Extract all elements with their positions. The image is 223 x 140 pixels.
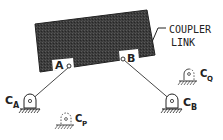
pivot-ca: C A [5, 94, 40, 113]
ground-pivot-icon [24, 94, 36, 108]
pin-a-icon [67, 64, 71, 68]
ground-hatch-icon [19, 109, 40, 113]
ground-hatch-icon [178, 81, 196, 85]
ground-pivot-icon [166, 94, 178, 108]
pivot-cb-subscript: B [191, 103, 197, 112]
ground-hatch-icon [55, 125, 73, 129]
joint-a-label: A [55, 59, 64, 72]
coupler-label-line2: LINK [171, 37, 195, 48]
pin-b-icon [121, 57, 125, 61]
pivot-cq-subscript: Q [207, 75, 213, 83]
ground-hatch-icon [161, 109, 182, 113]
pivot-cq: C Q [178, 68, 213, 85]
coupler-label-line1: COUPLER [169, 24, 212, 35]
ground-pivot-solid-half-icon [184, 69, 189, 80]
pivot-cp-subscript: P [82, 120, 87, 128]
joint-b-label: B [127, 52, 135, 65]
ground-pivot-dashed-icon [61, 113, 71, 124]
pivot-cb-label: C [183, 96, 191, 109]
pivot-ca-subscript: A [13, 101, 20, 110]
pivot-cb: C B [161, 94, 197, 113]
link-b-cb [124, 60, 172, 101]
ground-pivot-dashed-half-icon [189, 69, 194, 80]
leader-line [152, 28, 166, 42]
coupler-link [35, 10, 155, 72]
pivot-cp: C P [55, 113, 87, 129]
linkage-diagram: COUPLER LINK A B C A [0, 0, 223, 140]
link-a-ca [30, 67, 69, 101]
pivot-ca-label: C [5, 94, 13, 107]
